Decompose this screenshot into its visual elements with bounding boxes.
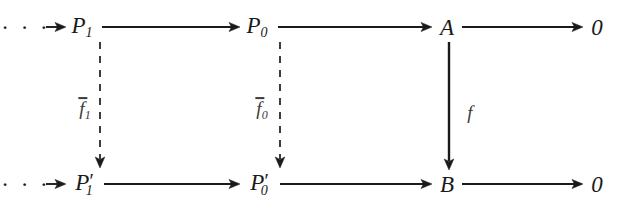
node-zero-bottom-row: 0 bbox=[591, 173, 603, 196]
node-A: A bbox=[440, 16, 454, 39]
map-label-f-bar-1-base: f bbox=[79, 98, 84, 119]
map-label-f-bar-0-base: f bbox=[256, 98, 261, 119]
commutative-diagram: · · · P1 P0 A 0 · · · P′1 P′0 B 0 f1 f0 … bbox=[0, 0, 617, 210]
node-B: B bbox=[440, 173, 454, 196]
map-label-f-bar-0: f0 bbox=[256, 99, 267, 121]
node-P1-prime-subscript: 1 bbox=[86, 182, 93, 197]
ellipsis-top-row: · · · bbox=[1, 16, 50, 39]
node-P0-subscript: 0 bbox=[261, 25, 268, 40]
node-A-base: A bbox=[440, 15, 454, 40]
node-P0: P0 bbox=[246, 14, 267, 40]
map-label-f: f bbox=[467, 103, 472, 122]
map-label-f-bar-0-subscript: 0 bbox=[262, 108, 268, 122]
node-P0-base: P bbox=[246, 13, 260, 38]
ellipsis-bottom-row: · · · bbox=[1, 173, 50, 196]
node-P1-subscript: 1 bbox=[86, 25, 93, 40]
overbar-f-bar-0 bbox=[255, 98, 264, 99]
node-P0-prime: P′0 bbox=[250, 171, 267, 198]
node-zero-top-row: 0 bbox=[591, 16, 603, 39]
map-label-f-bar-1: f1 bbox=[79, 99, 90, 121]
node-P1-prime: P′1 bbox=[75, 171, 92, 198]
map-label-f-base: f bbox=[467, 102, 472, 123]
map-label-f-bar-1-subscript: 1 bbox=[85, 108, 91, 122]
node-P0-prime-subscript: 0 bbox=[261, 182, 268, 197]
node-P1-base: P bbox=[71, 13, 85, 38]
node-P1: P1 bbox=[71, 14, 92, 40]
overbar-f-bar-1 bbox=[78, 98, 87, 99]
node-B-base: B bbox=[440, 172, 454, 197]
